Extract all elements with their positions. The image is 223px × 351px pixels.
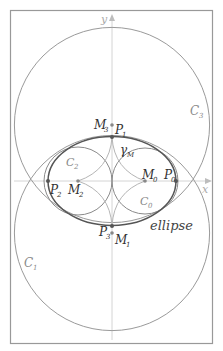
point-m1 (110, 231, 114, 235)
label-m1: M 1 (114, 233, 130, 249)
y-axis-arrow-icon (109, 14, 115, 21)
label-c3: C 3 (190, 104, 204, 120)
label-p2: P 2 (49, 183, 62, 199)
svg-text:M: M (126, 151, 135, 159)
label-gamma-m: γ M (120, 143, 135, 159)
svg-text:3: 3 (106, 233, 111, 241)
point-p3 (110, 224, 114, 228)
svg-text:C: C (190, 104, 199, 118)
label-c1: C 1 (24, 256, 37, 272)
svg-text:2: 2 (78, 191, 84, 199)
svg-text:3: 3 (199, 112, 204, 120)
svg-text:C: C (24, 256, 33, 270)
svg-text:2: 2 (56, 191, 62, 199)
svg-text:1: 1 (122, 131, 126, 139)
svg-text:1: 1 (33, 264, 37, 272)
svg-text:0: 0 (148, 202, 153, 210)
label-c2: C 2 (66, 156, 79, 171)
svg-text:3: 3 (104, 126, 109, 134)
label-m2: M 2 (67, 183, 84, 199)
diagram-canvas: y x C 3 C 1 C 2 C 0 γ M ellipse M 3 P 1 … (0, 0, 223, 351)
y-axis-label: y (100, 13, 108, 26)
point-p1 (110, 135, 114, 139)
label-p1: P 1 (114, 123, 126, 139)
svg-text:1: 1 (126, 241, 130, 249)
point-m3 (110, 123, 114, 127)
svg-text:0: 0 (153, 176, 158, 184)
x-axis-label: x (202, 183, 209, 196)
svg-text:0: 0 (171, 176, 176, 184)
svg-text:2: 2 (73, 163, 79, 171)
label-ellipse: ellipse (150, 218, 193, 233)
label-p3: P 3 (98, 225, 111, 241)
label-m3: M 3 (93, 118, 109, 134)
label-m0: M 0 (141, 168, 158, 184)
label-c0: C 0 (140, 195, 153, 210)
